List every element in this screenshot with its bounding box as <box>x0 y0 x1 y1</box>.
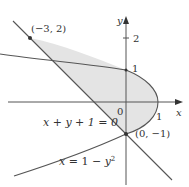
x-axis-arrow-icon <box>175 99 183 105</box>
x-tick-label-1: 1 <box>156 111 162 122</box>
point-0-1 <box>125 69 128 72</box>
y-tick-label-2: 2 <box>133 33 139 44</box>
y-axis-label: y <box>116 15 123 26</box>
parabola-eq-sup: 2 <box>111 155 115 163</box>
region-diagram: (−3, 2) (0, −1) y x 0 2 1 1 x + y + 1 = … <box>0 0 189 187</box>
line-equation-label: x + y + 1 = 0 <box>43 116 118 129</box>
parabola-eq-mid: = 1 − <box>65 155 104 168</box>
y-tick-label-1: 1 <box>132 63 138 74</box>
point-label-neg3-2: (−3, 2) <box>31 23 66 34</box>
x-axis-label: x <box>176 107 182 118</box>
point-neg3-2 <box>28 36 32 40</box>
parabola-equation-label: x = 1 − y2 <box>59 155 115 168</box>
y-axis-arrow-icon <box>123 16 129 24</box>
point-label-0-neg1: (0, −1) <box>135 128 170 139</box>
point-0-neg1 <box>124 132 128 136</box>
